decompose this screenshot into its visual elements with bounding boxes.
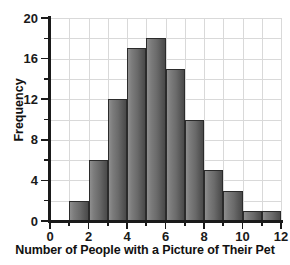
x-axis-minor-tick	[145, 220, 147, 226]
y-axis-tick-label: 4	[8, 174, 38, 187]
y-axis-tick-label: 20	[8, 12, 38, 25]
histogram-bar	[108, 99, 127, 221]
y-axis-tick	[41, 180, 50, 182]
histogram-bar	[166, 69, 185, 221]
x-axis-tick	[126, 220, 128, 229]
y-axis-tick	[41, 17, 50, 19]
y-axis-tick-label: 16	[8, 52, 38, 65]
x-axis-tick	[280, 220, 282, 229]
x-axis-tick-label: 6	[153, 230, 179, 243]
histogram-bar	[146, 38, 165, 221]
x-axis-tick	[88, 220, 90, 229]
x-axis-minor-tick	[107, 220, 109, 226]
y-axis-minor-tick	[44, 38, 50, 40]
x-axis-tick	[203, 220, 205, 229]
y-axis-tick-label: 12	[8, 93, 38, 106]
x-axis-minor-tick	[261, 220, 263, 226]
x-axis-minor-tick	[222, 220, 224, 226]
x-axis-minor-tick	[184, 220, 186, 226]
x-axis-tick	[242, 220, 244, 229]
x-axis-tick-label: 0	[37, 230, 63, 243]
x-axis-tick-label: 2	[76, 230, 102, 243]
x-axis-tick	[165, 220, 167, 229]
histogram-bar	[223, 191, 242, 221]
y-axis-tick-label: 8	[8, 133, 38, 146]
histogram-bar	[69, 201, 88, 221]
histogram-bar	[204, 170, 223, 221]
x-axis-title: Number of People with a Picture of Their…	[0, 243, 290, 257]
y-axis-minor-tick	[44, 159, 50, 161]
y-axis-minor-tick	[44, 200, 50, 202]
histogram-bar	[127, 48, 146, 221]
y-axis-tick	[41, 58, 50, 60]
x-axis-minor-tick	[68, 220, 70, 226]
y-axis-minor-tick	[44, 78, 50, 80]
plot-area	[50, 18, 281, 221]
histogram-figure: Number of People with a Picture of Their…	[0, 0, 290, 265]
gridline-horizontal	[50, 59, 281, 60]
x-axis-tick-label: 8	[191, 230, 217, 243]
y-axis-tick	[41, 98, 50, 100]
y-axis-minor-tick	[44, 119, 50, 121]
x-axis-tick-label: 10	[230, 230, 256, 243]
histogram-bar	[89, 160, 108, 221]
y-axis-tick-label: 0	[8, 215, 38, 228]
gridline-horizontal	[50, 18, 281, 19]
y-axis-tick	[41, 139, 50, 141]
histogram-bar	[185, 120, 204, 222]
x-axis-tick-label: 12	[268, 230, 290, 243]
x-axis-tick-label: 4	[114, 230, 140, 243]
y-axis-title: Frequency	[12, 50, 26, 170]
x-axis-tick	[49, 220, 51, 229]
gridline-vertical	[281, 18, 282, 221]
gridline-horizontal	[50, 38, 281, 39]
